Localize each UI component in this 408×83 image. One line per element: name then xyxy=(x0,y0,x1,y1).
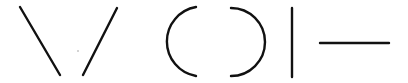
right-arc xyxy=(231,8,265,76)
left-arc xyxy=(167,7,196,76)
shape-diagram xyxy=(0,0,408,83)
diagram-svg xyxy=(0,0,408,83)
diagonal-line-slash xyxy=(83,8,117,75)
diagonal-line-backslash xyxy=(20,7,60,75)
speck-dot xyxy=(77,50,78,51)
